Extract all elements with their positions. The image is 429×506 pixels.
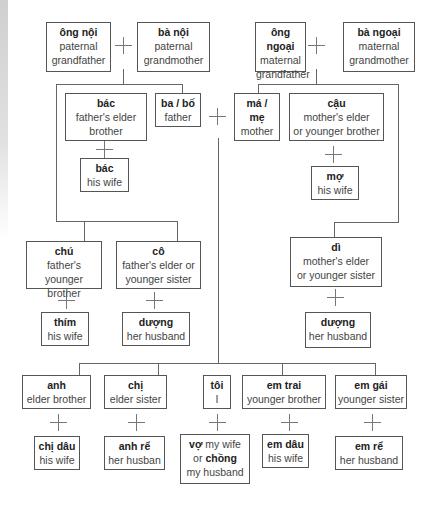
- node-chu: chú father's younger brother: [26, 241, 102, 289]
- node-cau: cậu mother's elder or younger brother: [289, 93, 384, 141]
- connector: [258, 84, 398, 85]
- node-bac-wife: bác his wife: [80, 158, 129, 192]
- connector: [56, 84, 57, 222]
- marriage-plus-icon: [281, 414, 298, 431]
- connector: [79, 363, 375, 364]
- marriage-plus-icon: [308, 37, 325, 54]
- marriage-plus-icon: [209, 414, 226, 431]
- node-anh-re: anh rể her husban: [104, 436, 165, 470]
- connector: [334, 222, 335, 237]
- connector: [398, 84, 399, 223]
- node-chi: chị elder sister: [104, 375, 167, 409]
- node-duong-co: dượng her husband: [122, 312, 190, 346]
- marriage-plus-icon: [364, 414, 381, 431]
- node-toi: tôi I: [203, 375, 231, 409]
- node-ba-noi: bà nội paternal grandmother: [137, 22, 210, 72]
- marriage-plus-icon: [128, 414, 145, 431]
- node-father: ba / bố father: [155, 93, 201, 127]
- marriage-plus-icon: [327, 289, 344, 306]
- node-em-gai: em gái younger sister: [335, 375, 407, 409]
- connector: [316, 69, 317, 84]
- node-duong-di: dượng her husband: [305, 312, 371, 348]
- node-di: dì mother's elder or younger sister: [290, 237, 382, 287]
- connector: [158, 363, 159, 375]
- node-thim: thím his wife: [41, 312, 89, 346]
- connector: [79, 363, 80, 375]
- node-anh: anh elder brother: [22, 375, 91, 409]
- node-ong-noi: ông nội paternal grandfather: [46, 22, 111, 72]
- marriage-plus-icon: [96, 141, 113, 158]
- marriage-plus-icon: [146, 292, 163, 309]
- connector: [84, 221, 85, 241]
- node-mo: mợ his wife: [311, 166, 359, 200]
- marriage-plus-icon: [325, 146, 342, 163]
- node-bac: bác father's elder brother: [65, 93, 147, 141]
- connector: [375, 363, 376, 375]
- connector: [123, 69, 124, 84]
- node-em-re: em rể her husband: [335, 436, 403, 470]
- node-em-dau: em dâu his wife: [262, 434, 309, 468]
- node-ba-ngoai: bà ngoại maternal grandmother: [343, 22, 415, 72]
- marriage-plus-icon: [209, 108, 226, 125]
- node-ong-ngoai: ông ngoại maternal grandfather: [255, 22, 306, 72]
- scan-edge-shadow: [0, 0, 8, 240]
- node-co: cô father's elder or younger sister: [116, 241, 201, 289]
- connector: [56, 84, 182, 85]
- connector: [218, 138, 219, 363]
- connector: [282, 363, 283, 375]
- node-em-trai: em trai younger brother: [242, 375, 326, 409]
- node-mother: má / mẹ mother: [234, 93, 280, 141]
- marriage-plus-icon: [115, 37, 132, 54]
- node-chi-dau: chị dâu his wife: [34, 436, 80, 470]
- connector: [56, 221, 177, 222]
- connector: [177, 221, 178, 241]
- marriage-plus-icon: [50, 414, 67, 431]
- node-spouse: vợ my wife or chồng my husband: [180, 434, 250, 484]
- connector: [334, 222, 398, 223]
